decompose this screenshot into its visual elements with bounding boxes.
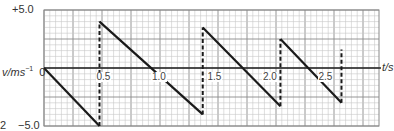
x-tick-label: 1.0 xyxy=(151,72,167,82)
y-tick-top: +5.0 xyxy=(12,4,34,15)
x-axis-label: t/s xyxy=(382,62,394,73)
y-axis-title: v/ms xyxy=(2,66,25,78)
x-tick-label: 0.5 xyxy=(96,72,112,82)
y-axis-label: v/ms−1 0 xyxy=(2,63,45,78)
x-tick-label: 2.5 xyxy=(318,72,334,82)
y-axis-unit-exponent: −1 xyxy=(25,65,33,72)
x-tick-label: 2.0 xyxy=(262,72,278,82)
y-tick-zero: 0 xyxy=(39,66,45,78)
stray-left-glyph: 2 xyxy=(0,120,6,131)
y-tick-bottom: −5.0 xyxy=(18,120,40,131)
x-axis-title: t/s xyxy=(382,61,394,73)
x-tick-label: 1.5 xyxy=(207,72,223,82)
